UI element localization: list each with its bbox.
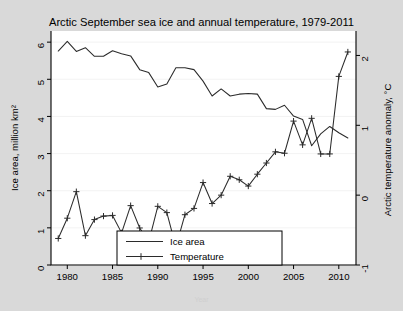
chart-title: Arctic September sea ice and annual temp…: [49, 16, 354, 28]
chart-figure: Arctic September sea ice and annual temp…: [0, 0, 403, 311]
y-tick-label-5: 5: [35, 80, 46, 85]
x-tick-label-1985: 1985: [102, 271, 123, 282]
y-tick-label-0: 0: [35, 266, 46, 271]
y2-tick-label-2: 2: [359, 56, 370, 61]
y2-tick-label-1: 1: [359, 126, 370, 131]
y2-tick-label--1: -1: [359, 264, 370, 273]
plot-area-background: [51, 31, 356, 265]
arctic-sea-ice-temperature-chart: Arctic September sea ice and annual temp…: [0, 0, 403, 311]
x-tick-label-1990: 1990: [147, 271, 168, 282]
x-tick-label-2010: 2010: [328, 271, 349, 282]
legend-label-ice-area: Ice area: [170, 236, 205, 247]
x-tick-label-1980: 1980: [57, 271, 78, 282]
y-axis-right-label: Arctic temperature anomaly, °C: [382, 84, 393, 217]
legend: Ice area Temperature: [117, 231, 282, 265]
y-tick-label-4: 4: [35, 117, 46, 123]
x-tick-label-2000: 2000: [238, 271, 259, 282]
y-tick-label-2: 2: [35, 191, 46, 196]
y-tick-label-1: 1: [35, 229, 46, 234]
y-axis-left-label: Ice area, million km²: [9, 104, 20, 191]
x-tick-label-2005: 2005: [283, 271, 304, 282]
y2-tick-label-0: 0: [359, 196, 370, 201]
legend-label-temperature: Temperature: [170, 251, 224, 262]
y-tick-label-3: 3: [35, 154, 46, 159]
y-tick-label-6: 6: [35, 43, 46, 48]
figure-footer-note: Year: [194, 296, 209, 303]
x-tick-label-1995: 1995: [192, 271, 213, 282]
